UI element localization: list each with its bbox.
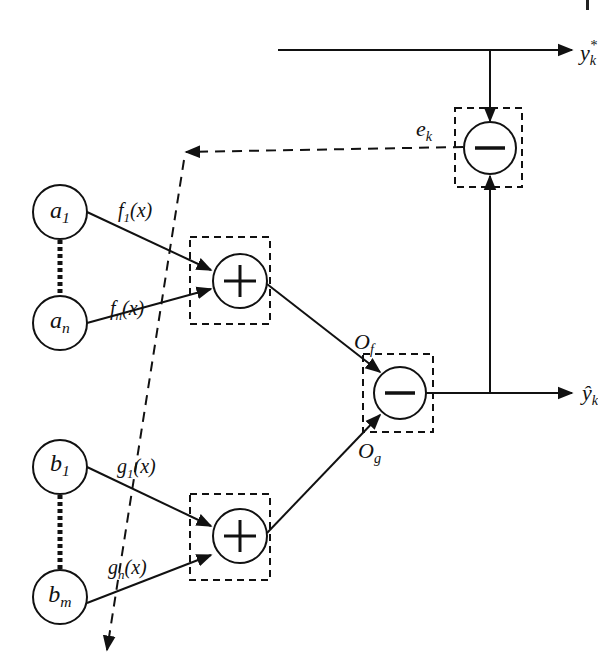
label-bm: bm xyxy=(48,582,71,610)
label-Og: Og xyxy=(358,440,381,465)
edge-fn xyxy=(87,289,211,323)
label-ek: ek xyxy=(416,118,432,143)
label-y-hat: ŷk xyxy=(582,382,598,407)
label-fn: fn(x) xyxy=(110,298,144,322)
label-f1: f1(x) xyxy=(118,200,152,224)
label-a1: a1 xyxy=(50,198,70,226)
label-Of: Of xyxy=(354,331,374,356)
error-feedback-horizontal xyxy=(186,147,463,152)
page-edge-mark xyxy=(586,0,589,10)
label-b1: b1 xyxy=(50,451,70,479)
label-an: an xyxy=(50,308,70,336)
label-y-star: yk* xyxy=(580,38,597,67)
label-gn: gn(x) xyxy=(108,557,147,581)
label-g1: g1(x) xyxy=(117,456,156,480)
